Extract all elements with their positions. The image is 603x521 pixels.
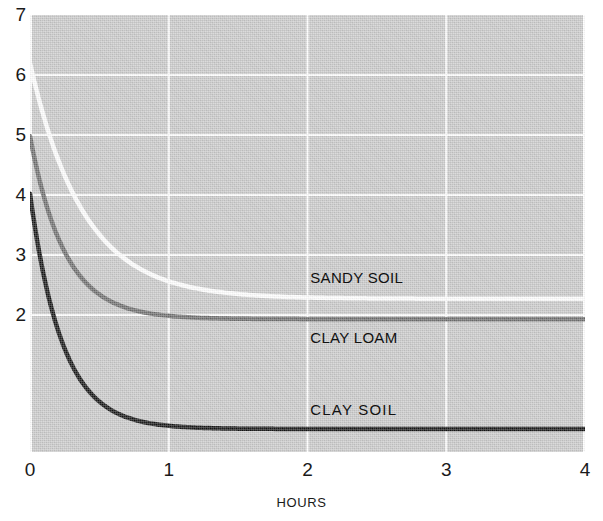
plot-canvas: [30, 15, 585, 452]
y-tick-3: 3: [2, 245, 26, 264]
soil-infiltration-chart: 765432 SANDY SOILCLAY LOAMCLAY SOIL 0123…: [0, 0, 603, 521]
y-tick-4: 4: [2, 185, 26, 204]
y-tick-2: 2: [2, 305, 26, 324]
x-tick-0: 0: [10, 460, 50, 479]
y-tick-6: 6: [2, 65, 26, 84]
y-axis-tick-labels: 765432: [0, 0, 26, 521]
y-tick-7: 7: [2, 5, 26, 24]
x-tick-4: 4: [565, 460, 603, 479]
x-tick-1: 1: [149, 460, 189, 479]
x-tick-2: 2: [288, 460, 328, 479]
plot-area: SANDY SOILCLAY LOAMCLAY SOIL: [30, 15, 585, 452]
series-label-sandy-soil: SANDY SOIL: [310, 269, 403, 286]
x-tick-3: 3: [426, 460, 466, 479]
series-label-clay-soil: CLAY SOIL: [310, 401, 397, 418]
x-axis-title: HOURS: [0, 495, 603, 510]
series-label-clay-loam: CLAY LOAM: [310, 329, 397, 346]
gridlines-vertical: [31, 15, 584, 452]
y-tick-5: 5: [2, 125, 26, 144]
